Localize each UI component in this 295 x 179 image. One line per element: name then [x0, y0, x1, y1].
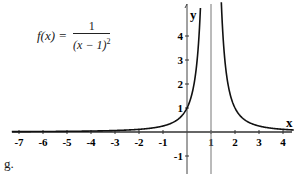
y-axis-label: y: [190, 7, 197, 22]
y-tick-label: 2: [178, 78, 184, 90]
formula-lhs: f(x) =: [37, 28, 67, 44]
x-axis-label: x: [286, 115, 293, 130]
y-tick-label: -1: [174, 150, 183, 162]
figure-sublabel: g.: [4, 156, 14, 172]
formula-denominator: (x − 1)2: [73, 35, 110, 52]
x-tick-label: 2: [232, 136, 238, 148]
y-tick-label: 1: [178, 102, 184, 114]
x-tick-label: -2: [134, 136, 144, 148]
denominator-exponent: 2: [106, 37, 110, 46]
x-tick-label: -7: [14, 136, 24, 148]
y-tick-label: 3: [178, 54, 184, 66]
x-tick-label: -4: [86, 136, 96, 148]
x-tick-label: -1: [158, 136, 167, 148]
formula-numerator: 1: [87, 20, 97, 32]
x-tick-label: -6: [38, 136, 48, 148]
function-formula: f(x) = 1 (x − 1)2: [37, 20, 110, 52]
x-tick-label: 4: [280, 136, 286, 148]
y-tick-label: 4: [178, 30, 184, 42]
x-tick-label: 3: [256, 136, 262, 148]
curve-right-branch: [221, 2, 293, 130]
x-tick-label: -5: [62, 136, 72, 148]
fraction-bar: [73, 33, 110, 34]
x-tick-label: -3: [110, 136, 120, 148]
denominator-base: (x − 1): [73, 38, 106, 52]
formula-fraction: 1 (x − 1)2: [73, 20, 110, 52]
